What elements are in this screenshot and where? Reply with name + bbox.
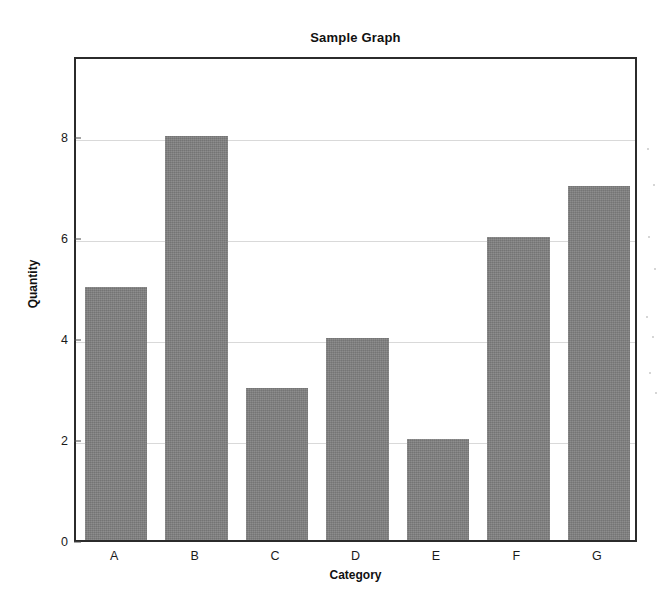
y-axis-tick-mark [74,137,81,138]
bar-g [568,186,630,540]
bar-c [246,388,308,540]
bar-series [76,59,635,540]
bar-d [326,338,388,540]
y-axis-tick-mark [74,339,81,340]
scan-speckle [652,336,654,338]
y-axis-tick-mark [74,238,81,239]
x-axis-tick-label: F [513,549,521,563]
x-axis-tick-label: D [351,549,360,563]
y-axis-tick-label: 2 [34,434,68,448]
bar-f [487,237,549,540]
y-axis-tick-label: 8 [34,131,68,145]
scan-speckle [647,148,649,150]
scan-speckle [653,184,655,186]
scan-speckle [649,372,651,374]
x-axis-tick-label: C [271,549,280,563]
x-axis-label: Category [74,568,637,582]
x-axis-tick-label: A [110,549,118,563]
x-axis-tick-label: B [190,549,198,563]
y-axis-tick-label: 0 [34,535,68,549]
scan-speckle [654,268,656,270]
scan-artifact-speckles [641,140,663,420]
y-axis-tick-mark [74,440,81,441]
scan-speckle [646,316,648,318]
bar-b [165,136,227,540]
y-axis-tick-mark [74,542,81,543]
x-axis-tick-label: G [592,549,602,563]
bar-e [407,439,469,540]
chart-figure: Sample Graph Quantity 02468 ABCDEFG Cate… [0,0,663,609]
scan-speckle [648,236,650,238]
y-axis-tick-labels: 02468 [28,57,68,542]
bar-a [85,287,147,540]
plot-area [74,57,637,542]
y-axis-tick-label: 4 [34,333,68,347]
chart-title: Sample Graph [74,30,637,45]
scan-speckle [655,392,657,394]
x-axis-tick-label: E [432,549,440,563]
y-axis-tick-label: 6 [34,232,68,246]
